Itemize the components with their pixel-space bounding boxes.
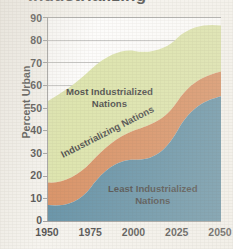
band-label-least-line2: Nations: [108, 195, 198, 207]
y-tick-label-20: 20: [2, 169, 42, 181]
y-tick-label-70: 70: [2, 57, 42, 69]
x-tick-label-2050: 2050: [197, 226, 233, 238]
x-tick-label-2025: 2025: [154, 226, 200, 238]
x-tick-label-2000: 2000: [111, 226, 157, 238]
y-tick-label-30: 30: [2, 147, 42, 159]
band-label-least-line1: Least Industrialized: [108, 183, 198, 194]
chart-screenshot: Industrializing Percent Urban 90 80 70 6…: [0, 0, 233, 249]
band-label-most-line1: Most Industrialized: [66, 86, 153, 97]
y-tick-label-0: 0: [2, 214, 42, 226]
y-tick-label-10: 10: [2, 192, 42, 204]
band-label-least-industrialized: Least Industrialized Nations: [108, 183, 198, 206]
y-tick-label-50: 50: [2, 102, 42, 114]
y-tick-label-40: 40: [2, 124, 42, 136]
x-tick-label-1950: 1950: [24, 226, 70, 238]
y-tick-label-60: 60: [2, 79, 42, 91]
y-tick-label-90: 90: [2, 12, 42, 24]
band-label-most-industrialized: Most Industrialized Nations: [66, 86, 153, 109]
y-tick-label-80: 80: [2, 34, 42, 46]
x-tick-label-1975: 1975: [67, 226, 113, 238]
stacked-area-chart: Percent Urban 90 80 70 60 50 40 30 20 10…: [0, 0, 233, 249]
